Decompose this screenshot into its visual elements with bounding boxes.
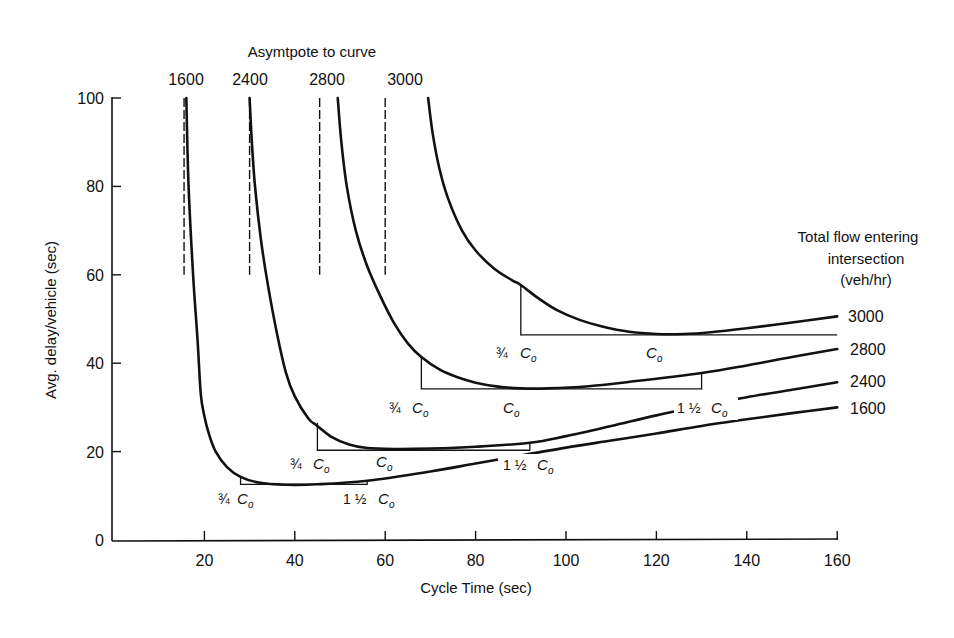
x-tick-label: 160: [824, 552, 851, 569]
annotation-2800-three-quarter-co: ¾ C o: [389, 399, 429, 419]
svg-text:C: C: [711, 399, 722, 416]
annotation-2400-co: C o: [376, 453, 393, 473]
svg-text:C: C: [378, 490, 389, 507]
y-ticks: 020406080100: [77, 90, 121, 549]
y-tick-label: 100: [77, 90, 104, 107]
svg-text:o: o: [722, 408, 728, 419]
legend-title-line-3: (veh/hr): [840, 271, 892, 288]
svg-text:o: o: [531, 353, 537, 364]
y-tick-label: 80: [86, 178, 104, 195]
x-tick-label: 20: [196, 552, 214, 569]
svg-text:C: C: [412, 399, 423, 416]
legend: Total flow entering intersection (veh/hr…: [798, 228, 919, 417]
svg-text:C: C: [537, 456, 548, 473]
legend-3000: 3000: [848, 308, 884, 325]
svg-text:¾: ¾: [389, 400, 401, 416]
svg-text:¾: ¾: [218, 491, 230, 507]
svg-text:o: o: [248, 499, 254, 510]
svg-text:¾: ¾: [290, 456, 302, 472]
delay-vs-cycle-chart: Asymtpote to curve 1600 2400 2800 3000 0…: [0, 0, 954, 638]
curve-2400: [250, 98, 838, 449]
svg-text:o: o: [548, 465, 554, 476]
y-tick-label: 60: [86, 267, 104, 284]
x-tick-label: 100: [553, 552, 580, 569]
y-tick-label: 20: [86, 444, 104, 461]
asymptote-title: Asymtpote to curve: [248, 43, 376, 60]
annotation-3000-three-quarter-co: ¾ C o: [496, 344, 537, 364]
svg-text:o: o: [389, 499, 395, 510]
annotation-1600-three-quarter-co: ¾ C o: [218, 490, 254, 510]
x-tick-label: 120: [643, 552, 670, 569]
svg-text:¾: ¾: [496, 345, 508, 361]
svg-text:C: C: [237, 490, 248, 507]
svg-text:C: C: [313, 455, 324, 472]
svg-text:o: o: [324, 464, 330, 475]
y-tick-label: 40: [86, 355, 104, 372]
svg-text:C: C: [376, 453, 387, 470]
curve-3000: [428, 98, 837, 334]
x-tick-label: 80: [467, 552, 485, 569]
svg-text:o: o: [514, 408, 520, 419]
svg-text:o: o: [423, 408, 429, 419]
annotation-3000-co: C o: [646, 344, 663, 364]
y-axis-title: Avg. delay/vehicle (sec): [42, 241, 59, 399]
annotation-2800-one-half-co: 1 ½ C o: [674, 398, 738, 420]
y-tick-label: 0: [95, 532, 104, 549]
annotation-2400-one-half-co: 1 ½ C o: [498, 454, 562, 476]
annotation-2400-three-quarter-co: ¾ C o: [290, 455, 330, 475]
x-tick-label: 40: [286, 552, 304, 569]
legend-2800: 2800: [850, 341, 886, 358]
svg-text:o: o: [387, 462, 393, 473]
legend-title-line-1: Total flow entering: [798, 228, 919, 245]
svg-text:C: C: [503, 399, 514, 416]
annotation-1600-one-half-co: 1 ½ C o: [340, 489, 402, 510]
curve-1600: [186, 98, 837, 485]
asymptote-lines: [184, 98, 385, 275]
bracket-3000: [521, 285, 837, 335]
svg-text:C: C: [520, 344, 531, 361]
x-axis-title: Cycle Time (sec): [420, 579, 532, 596]
asymptote-label-2400: 2400: [232, 71, 268, 88]
asymptote-label-1600: 1600: [168, 71, 204, 88]
svg-text:1 ½: 1 ½: [677, 400, 701, 416]
legend-2400: 2400: [850, 373, 886, 390]
asymptote-label-3000: 3000: [387, 71, 423, 88]
x-tick-label: 60: [376, 552, 394, 569]
delay-curves: [186, 98, 837, 485]
svg-text:1 ½: 1 ½: [343, 491, 367, 507]
x-tick-label: 140: [733, 552, 760, 569]
curve-2800: [338, 98, 837, 389]
axes: [112, 97, 838, 541]
svg-text:o: o: [657, 353, 663, 364]
legend-title-line-2: intersection: [828, 250, 905, 267]
svg-text:C: C: [646, 344, 657, 361]
asymptote-label-2800: 2800: [309, 71, 345, 88]
x-ticks: 20406080100120140160: [196, 531, 851, 569]
svg-text:1 ½: 1 ½: [503, 457, 527, 473]
legend-1600: 1600: [850, 400, 886, 417]
annotation-2800-co: C o: [503, 399, 520, 419]
